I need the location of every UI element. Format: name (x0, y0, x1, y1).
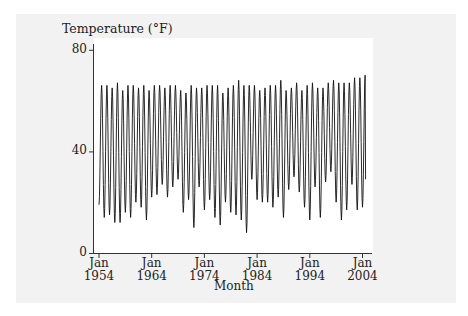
x-tick-label: Jan1954 (79, 257, 119, 283)
x-axis-title: Month (214, 280, 254, 293)
y-axis-title: Temperature (°F) (62, 22, 173, 35)
x-tick-label: Jan1994 (290, 257, 330, 283)
x-tick-label: Jan2004 (343, 257, 383, 283)
y-tick-label: 80 (72, 43, 87, 56)
chart-plot (0, 0, 468, 316)
y-tick-label: 40 (72, 144, 87, 157)
plot-area (94, 38, 373, 253)
y-ticks (89, 50, 94, 253)
x-tick-label: Jan1964 (132, 257, 172, 283)
